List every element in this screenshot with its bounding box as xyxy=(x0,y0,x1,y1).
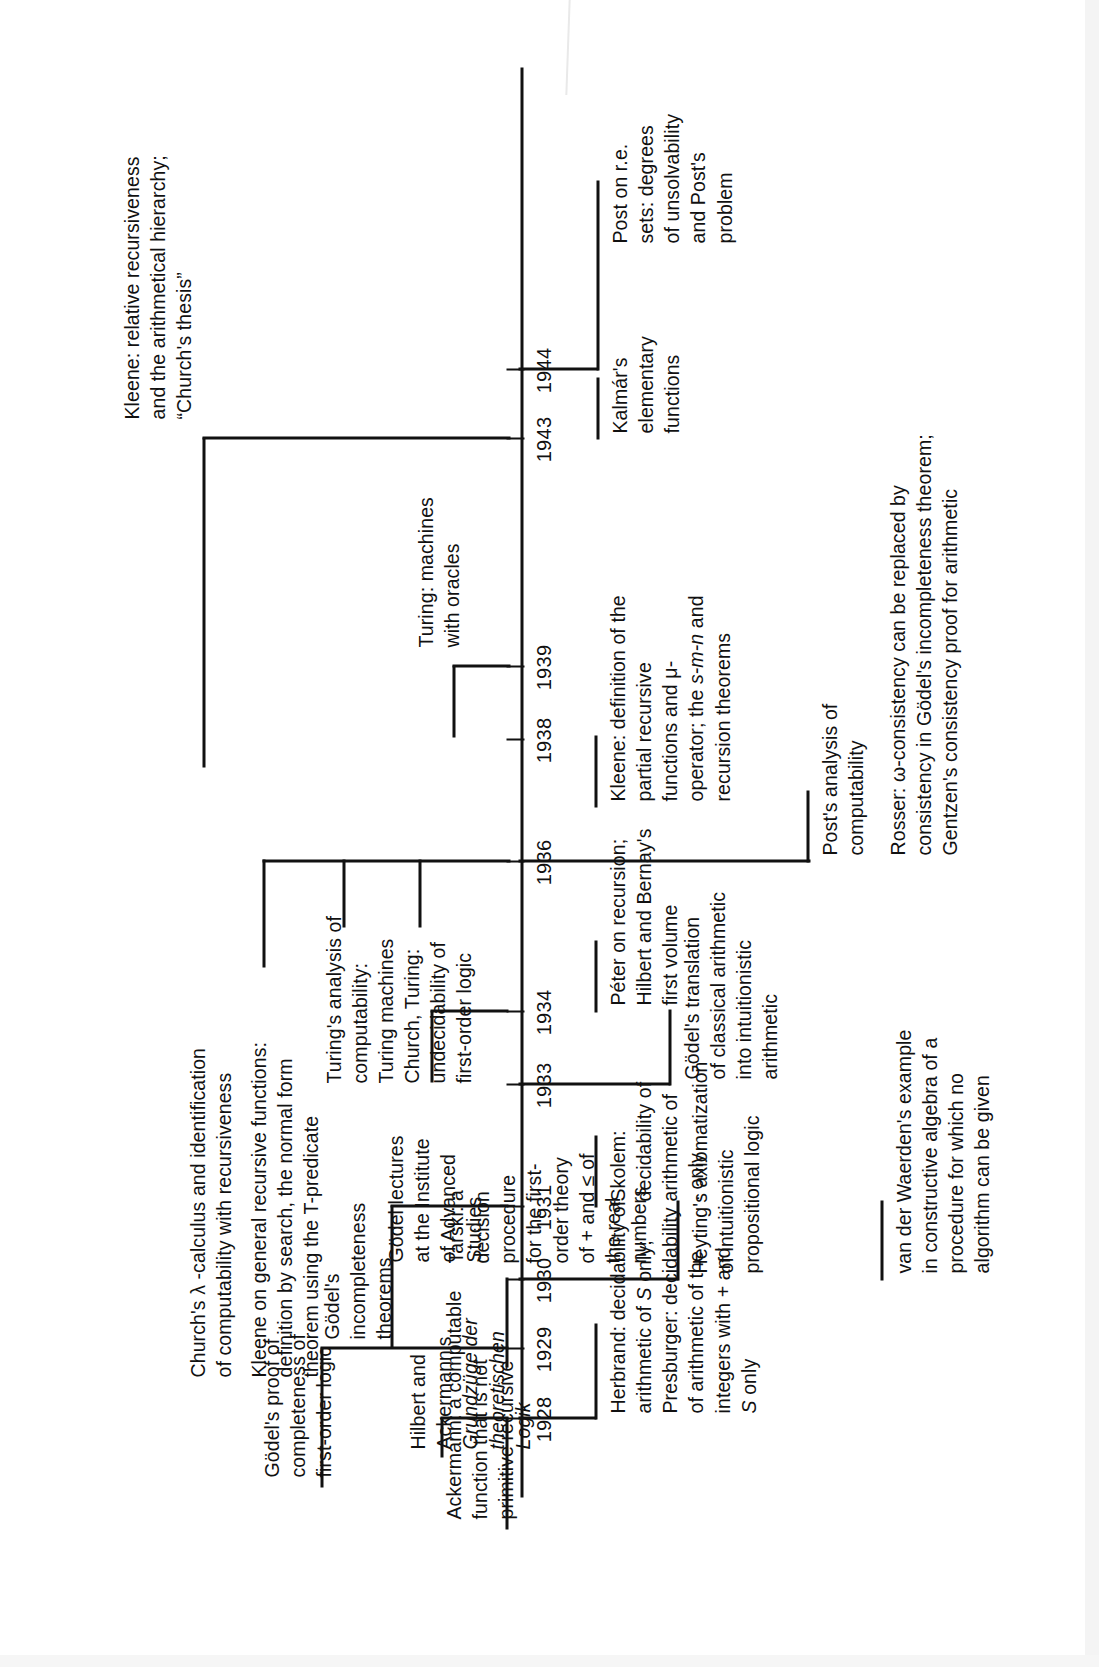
leader-kalmar xyxy=(596,377,599,439)
hilbert-ackermann-author: Hilbert and Ackermann's xyxy=(406,1336,454,1449)
event-church-turing-undecidability: Church, Turing: undecidability of first-… xyxy=(398,833,476,1083)
event-post-re-sets: Post on r.e. sets: degrees of unsolvabil… xyxy=(606,43,737,243)
leader-turing-oracles-stem xyxy=(452,665,510,668)
event-godel-translation: Gödel's translation of classical arithme… xyxy=(678,769,783,1079)
year-label-1929: 1929 xyxy=(532,1326,555,1372)
event-rosser-gentzen: Rosser: ω-consistency can be replaced by… xyxy=(884,215,962,855)
event-turing-analysis: Turing's analysis of computability: Turi… xyxy=(320,823,398,1083)
year-label-1943: 1943 xyxy=(532,416,555,462)
timeline-board: 1928 1929 1930 1931 1933 1934 1936 1938 … xyxy=(0,0,1099,1667)
leader-kleene-partial xyxy=(594,735,597,807)
kleene-smn-symbol: s-m-n xyxy=(684,633,706,683)
event-kalmar-elementary-functions: Kalmár's elementary functions xyxy=(606,233,684,433)
leader-van-der-waerden xyxy=(880,1200,883,1280)
herbrand-text-e: only xyxy=(737,1358,759,1400)
herbrand-text-a: Herbrand: decidability of arithmetic of xyxy=(606,1200,654,1413)
timeline-page: 1928 1929 1930 1931 1933 1934 1936 1938 … xyxy=(0,0,1099,1667)
herbrand-symbol-s2: S xyxy=(737,1400,759,1413)
event-turing-oracles: Turing: machines with oracles xyxy=(412,417,464,647)
event-van-der-waerden: van der Waerden's example in constructiv… xyxy=(890,923,995,1273)
leader-peter xyxy=(594,940,597,1012)
hilbert-ackermann-title: Grundzüge der theoretischen Logik xyxy=(458,1318,532,1449)
tick-1938 xyxy=(506,738,524,740)
year-label-1938: 1938 xyxy=(532,717,555,763)
event-hilbert-ackermann-grundzuge: Hilbert and Ackermann's Grundzüge der th… xyxy=(378,1239,535,1449)
event-kleene-partial-recursive: Kleene: definition of the partial recurs… xyxy=(604,531,735,801)
event-kleene-relative-recursiveness: Kleene: relative recursiveness and the a… xyxy=(118,39,196,419)
event-church-lambda-calculus: Church's λ -calculus and identification … xyxy=(184,917,236,1377)
year-label-1934: 1934 xyxy=(532,989,555,1035)
year-label-1939: 1939 xyxy=(532,644,555,690)
leader-kleene-relative xyxy=(202,437,205,767)
leader-post-analysis xyxy=(806,790,809,862)
leader-post-re-stem xyxy=(518,368,598,371)
event-post-analysis-computability: Post's analysis of computability xyxy=(816,605,868,855)
leader-herbrand xyxy=(594,1323,597,1419)
tick-1934 xyxy=(506,1010,524,1012)
leader-turing-oracles xyxy=(452,665,455,737)
rotated-diagram-rotor: 1928 1929 1930 1931 1933 1934 1936 1938 … xyxy=(0,0,1099,1667)
herbrand-symbol-s1: S xyxy=(632,1287,654,1300)
leader-post-re xyxy=(596,180,599,370)
